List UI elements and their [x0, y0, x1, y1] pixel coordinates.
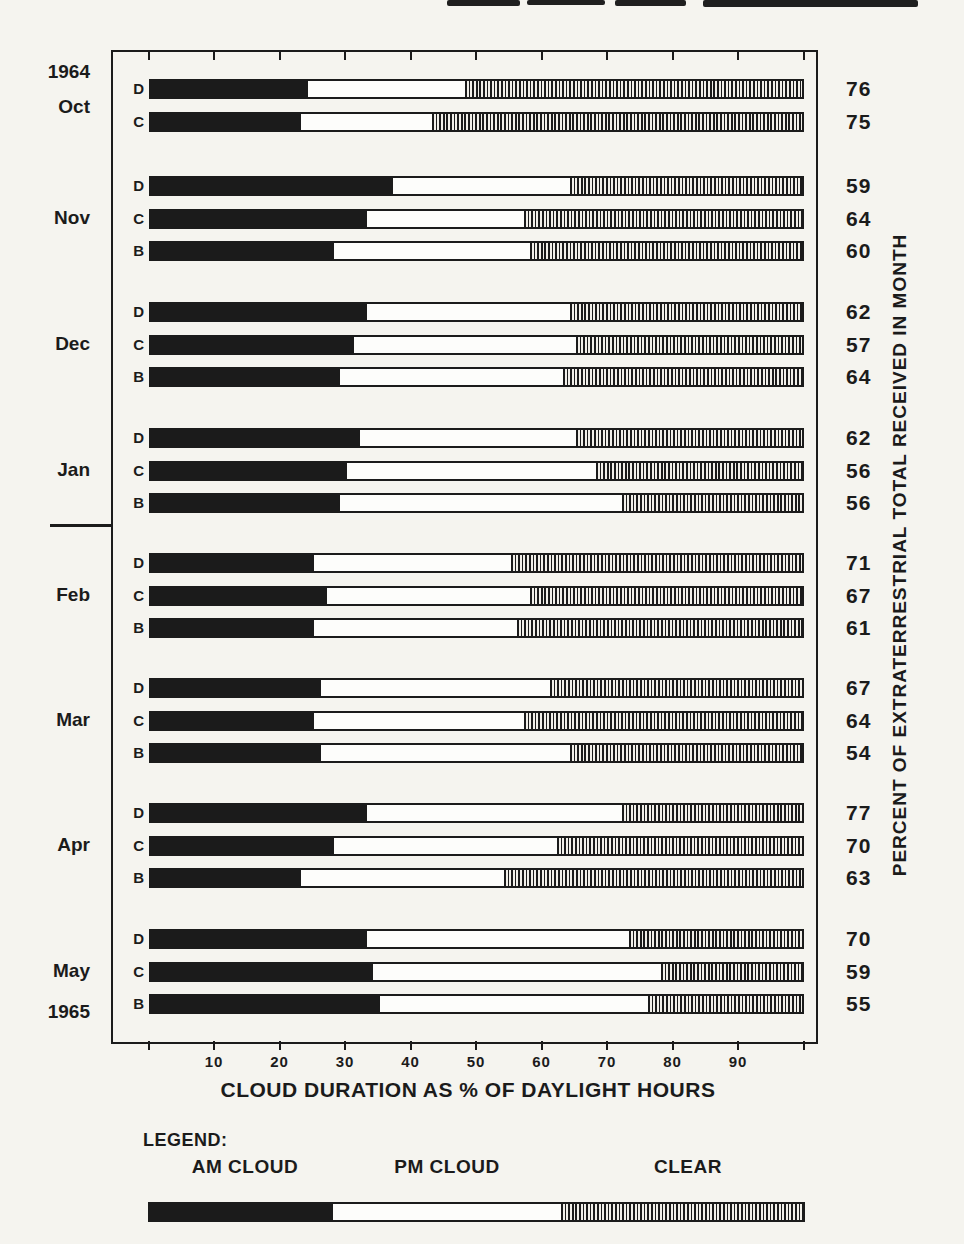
site-label: C — [118, 112, 144, 132]
site-label: B — [118, 868, 144, 888]
percent-received-value: 61 — [846, 617, 892, 639]
month-label: Apr — [30, 834, 90, 856]
percent-received-value: 70 — [846, 835, 892, 857]
segment-pm-cloud — [321, 680, 550, 696]
segment-am-cloud — [151, 304, 367, 320]
scan-artifact — [527, 0, 605, 5]
segment-pm-cloud — [354, 337, 577, 353]
segment-am-cloud — [151, 838, 334, 854]
stacked-bar — [149, 335, 804, 355]
bottom-axis-tick — [344, 1041, 346, 1050]
legend-label-pm-cloud: PM CLOUD — [372, 1156, 522, 1178]
segment-pm-cloud — [367, 211, 524, 227]
segment-pm-cloud — [334, 838, 557, 854]
stacked-bar — [149, 367, 804, 387]
month-label: Nov — [30, 207, 90, 229]
bottom-axis-tick — [541, 1041, 543, 1050]
top-axis-tick — [148, 52, 150, 60]
stacked-bar — [149, 586, 804, 606]
segment-clear — [524, 211, 802, 227]
scan-artifact — [703, 0, 918, 7]
stacked-bar — [149, 836, 804, 856]
percent-received-value: 59 — [846, 175, 892, 197]
segment-am-cloud — [151, 588, 328, 604]
segment-clear — [622, 495, 801, 511]
segment-clear — [563, 369, 801, 385]
segment-clear — [570, 178, 802, 194]
segment-am-cloud — [151, 81, 308, 97]
legend-swatch-pm-cloud — [333, 1204, 562, 1220]
segment-pm-cloud — [308, 81, 465, 97]
top-axis-tick — [672, 52, 674, 60]
site-label: C — [118, 209, 144, 229]
x-axis-title: CLOUD DURATION AS % OF DAYLIGHT HOURS — [218, 1078, 718, 1102]
segment-clear — [557, 838, 802, 854]
percent-received-value: 60 — [846, 240, 892, 262]
segment-am-cloud — [151, 337, 354, 353]
segment-clear — [629, 931, 802, 947]
legend-label-am-cloud: AM CLOUD — [170, 1156, 320, 1178]
month-label: Oct — [30, 96, 90, 118]
top-axis-tick — [606, 52, 608, 60]
segment-clear — [432, 114, 801, 130]
segment-am-cloud — [151, 211, 367, 227]
site-label: D — [118, 678, 144, 698]
segment-am-cloud — [151, 555, 315, 571]
x-tick-label: 70 — [590, 1053, 624, 1070]
x-tick-label: 10 — [197, 1053, 231, 1070]
segment-am-cloud — [151, 931, 367, 947]
segment-am-cloud — [151, 745, 321, 761]
segment-pm-cloud — [367, 931, 629, 947]
segment-clear — [550, 680, 801, 696]
stacked-bar — [149, 428, 804, 448]
segment-pm-cloud — [314, 555, 511, 571]
percent-received-value: 59 — [846, 961, 892, 983]
segment-am-cloud — [151, 114, 302, 130]
month-label: Dec — [30, 333, 90, 355]
site-label: B — [118, 493, 144, 513]
year-end-label: 1965 — [30, 1001, 90, 1023]
top-axis-tick — [541, 52, 543, 60]
stacked-bar — [149, 302, 804, 322]
month-label: Feb — [30, 584, 90, 606]
top-axis-tick — [410, 52, 412, 60]
site-label: D — [118, 176, 144, 196]
plot-frame — [111, 50, 818, 1044]
top-axis-tick — [344, 52, 346, 60]
segment-am-cloud — [151, 805, 367, 821]
segment-am-cloud — [151, 996, 380, 1012]
segment-pm-cloud — [321, 745, 570, 761]
site-label: B — [118, 994, 144, 1014]
stacked-bar — [149, 79, 804, 99]
percent-received-value: 57 — [846, 334, 892, 356]
segment-clear — [504, 870, 801, 886]
percent-received-value: 64 — [846, 710, 892, 732]
legend-key-bar — [148, 1202, 805, 1222]
percent-received-value: 63 — [846, 867, 892, 889]
site-label: B — [118, 743, 144, 763]
percent-received-value: 54 — [846, 742, 892, 764]
segment-am-cloud — [151, 463, 348, 479]
segment-am-cloud — [151, 430, 361, 446]
segment-clear — [596, 463, 802, 479]
percent-received-value: 75 — [846, 111, 892, 133]
x-tick-label: 90 — [721, 1053, 755, 1070]
segment-pm-cloud — [360, 430, 576, 446]
bottom-axis-tick — [606, 1041, 608, 1050]
segment-am-cloud — [151, 178, 393, 194]
x-tick-label: 50 — [459, 1053, 493, 1070]
segment-am-cloud — [151, 964, 374, 980]
segment-clear — [576, 337, 801, 353]
x-tick-label: 40 — [394, 1053, 428, 1070]
site-label: B — [118, 618, 144, 638]
stacked-bar — [149, 112, 804, 132]
segment-pm-cloud — [373, 964, 661, 980]
percent-received-value: 67 — [846, 677, 892, 699]
percent-received-value: 64 — [846, 366, 892, 388]
site-label: C — [118, 962, 144, 982]
segment-clear — [661, 964, 801, 980]
site-label: D — [118, 553, 144, 573]
year-start-label: 1964 — [30, 61, 90, 83]
top-axis-tick — [737, 52, 739, 60]
segment-am-cloud — [151, 620, 315, 636]
